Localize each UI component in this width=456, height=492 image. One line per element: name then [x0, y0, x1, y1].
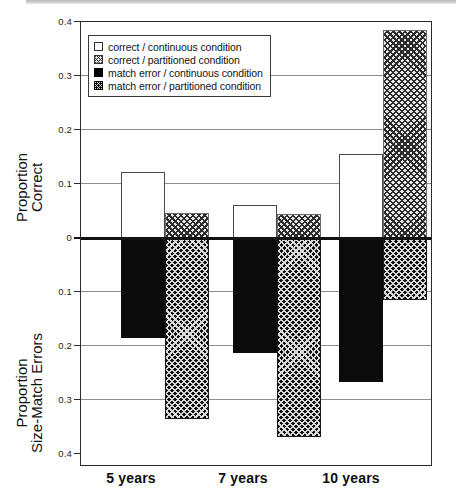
bar-5y-correct-partitioned: [165, 213, 209, 238]
legend-entry-correct-partitioned: correct / partitioned condition: [94, 53, 263, 66]
legend-swatch-hatch-dark-icon: [94, 81, 103, 90]
x-axis-label-7-years: 7 years: [198, 470, 288, 486]
x-axis-label-5-years: 5 years: [86, 470, 176, 486]
legend-label-correct-continuous: correct / continuous condition: [108, 41, 242, 53]
y-axis-title-top-line2: Correct: [29, 153, 44, 222]
legend-label-correct-partitioned: correct / partitioned condition: [108, 54, 240, 66]
legend-entry-error-continuous: match error / continuous condition: [94, 66, 263, 79]
legend-swatch-black-icon: [94, 68, 103, 77]
x-axis-label-10-years: 10 years: [304, 470, 398, 486]
bar-5y-error-continuous: [121, 238, 165, 338]
bar-10y-correct-continuous: [339, 154, 383, 238]
legend-entry-correct-continuous: correct / continuous condition: [94, 40, 263, 53]
bar-10y-correct-partitioned: [383, 30, 427, 238]
bar-7y-correct-partitioned: [277, 214, 321, 238]
y-axis-title-bottom-line2: Size-Match Errors: [29, 333, 44, 453]
bar-7y-error-continuous: [233, 238, 277, 353]
legend-swatch-hatch-light-icon: [94, 55, 103, 64]
bar-5y-error-partitioned: [165, 238, 209, 419]
chart-legend: correct / continuous condition correct /…: [88, 35, 271, 97]
gridline-0-3-bottom: [81, 399, 431, 400]
legend-entry-error-partitioned: match error / partitioned condition: [94, 79, 263, 92]
bar-chart-figure: 0.4 0.3 0.2 0.1 0 0.1 0.2 0.3 0.4 Propor…: [0, 0, 456, 492]
bar-7y-correct-continuous: [233, 205, 277, 238]
gridline-0-2-top: [81, 129, 431, 130]
y-tick-label-0-4-top: 0.4: [30, 16, 72, 27]
y-tick-label-zero: 0: [30, 232, 72, 243]
legend-label-error-partitioned: match error / partitioned condition: [108, 80, 261, 92]
bar-5y-correct-continuous: [121, 172, 165, 238]
legend-swatch-white-icon: [94, 42, 103, 51]
legend-label-error-continuous: match error / continuous condition: [108, 67, 263, 79]
y-axis-title-bottom: Proportion Size-Match Errors: [14, 333, 45, 453]
bar-7y-error-partitioned: [277, 238, 321, 437]
y-axis-title-top: Proportion Correct: [14, 153, 45, 222]
bar-10y-error-continuous: [339, 238, 383, 382]
bar-10y-error-partitioned: [383, 238, 427, 300]
y-tick-label-0-1-bottom: 0.1: [30, 286, 72, 297]
y-tick-label-0-2-top: 0.2: [30, 124, 72, 135]
y-tick-label-0-3-top: 0.3: [30, 70, 72, 81]
zero-baseline: [81, 237, 431, 240]
